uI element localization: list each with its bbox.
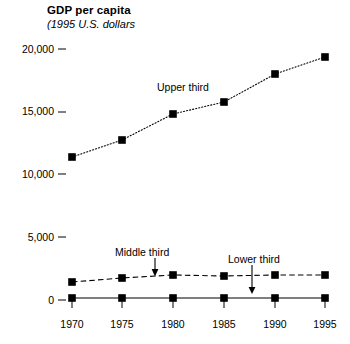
series-line-middle-third bbox=[72, 275, 325, 282]
x-tick-marks bbox=[72, 300, 325, 308]
series-line-upper-third bbox=[72, 57, 325, 157]
annotation-arrow-middle-third bbox=[152, 258, 159, 277]
y-tick-marks bbox=[58, 49, 66, 300]
gdp-per-capita-chart: GDP per capita (1995 U.S. dollars 20,000… bbox=[0, 0, 350, 344]
series-markers-middle-third bbox=[68, 271, 329, 286]
plot-area bbox=[0, 0, 350, 344]
annotation-arrow-lower-third bbox=[249, 265, 256, 294]
